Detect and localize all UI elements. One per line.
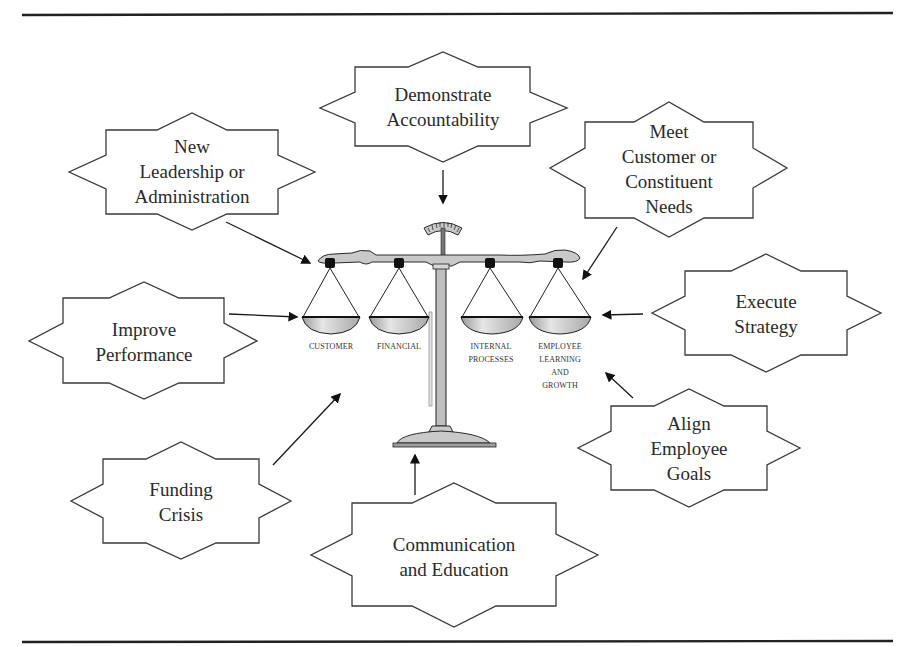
- svg-text:Communication: Communication: [393, 534, 516, 555]
- arrow-execute-strategy: [603, 314, 643, 315]
- svg-text:Needs: Needs: [645, 196, 692, 217]
- driver-demonstrate-accountability: Demonstrate Accountability: [320, 52, 567, 162]
- pan-employee: [529, 317, 591, 334]
- svg-text:Goals: Goals: [667, 463, 711, 484]
- scale: CUSTOMER FINANCIAL INTERNAL PROCESSES EM…: [302, 222, 591, 447]
- svg-text:Employee: Employee: [650, 438, 727, 459]
- driver-improve-performance: Improve Performance: [29, 282, 257, 399]
- scale-base: [397, 431, 490, 443]
- svg-text:Accountability: Accountability: [387, 109, 500, 130]
- pan-label-internal: INTERNAL: [471, 342, 512, 351]
- svg-text:Administration: Administration: [134, 186, 250, 207]
- svg-text:PROCESSES: PROCESSES: [469, 355, 514, 364]
- driver-meet-customer-needs: Meet Customer or Constituent Needs: [550, 102, 787, 237]
- svg-text:Meet: Meet: [649, 121, 689, 142]
- svg-text:LEARNING: LEARNING: [539, 355, 581, 364]
- scale-beam: [318, 250, 580, 266]
- svg-text:Leadership or: Leadership or: [140, 161, 246, 182]
- svg-text:Constituent: Constituent: [625, 171, 713, 192]
- svg-text:Improve: Improve: [112, 319, 176, 340]
- scale-post: [436, 266, 446, 426]
- svg-text:New: New: [174, 136, 210, 157]
- driver-new-leadership: New Leadership or Administration: [69, 113, 315, 230]
- svg-text:Strategy: Strategy: [734, 316, 798, 337]
- pan-customer: [302, 317, 360, 334]
- scale-pointer: [429, 312, 432, 406]
- svg-text:Demonstrate: Demonstrate: [394, 84, 491, 105]
- svg-text:Crisis: Crisis: [159, 504, 203, 525]
- arrow-improve-performance: [229, 314, 297, 317]
- svg-text:GROWTH: GROWTH: [542, 381, 578, 390]
- bottom-rule: [22, 641, 893, 642]
- pan-label-financial: FINANCIAL: [377, 342, 421, 351]
- diagram-canvas: Demonstrate Accountability New Leadershi…: [0, 0, 917, 646]
- arrow-align-employee: [606, 373, 633, 398]
- pan-label-employee: EMPLOYEE: [538, 342, 581, 351]
- driver-execute-strategy: Execute Strategy: [652, 254, 881, 372]
- top-rule: [22, 13, 893, 15]
- pan-label-customer: CUSTOMER: [309, 342, 354, 351]
- svg-text:Customer or: Customer or: [622, 146, 717, 167]
- driver-align-employee-goals: Align Employee Goals: [578, 389, 800, 507]
- svg-text:and Education: and Education: [399, 559, 509, 580]
- arrow-funding-crisis: [273, 394, 340, 465]
- svg-text:Execute: Execute: [735, 291, 796, 312]
- arrow-new-leadership: [226, 222, 310, 263]
- pan-internal: [461, 317, 523, 334]
- driver-communication-education: Communication and Education: [311, 483, 598, 627]
- pan-financial: [369, 317, 429, 334]
- svg-text:Performance: Performance: [95, 344, 192, 365]
- svg-text:Align: Align: [667, 413, 711, 434]
- svg-text:AND: AND: [551, 368, 569, 377]
- driver-funding-crisis: Funding Crisis: [71, 442, 291, 559]
- svg-text:Funding: Funding: [149, 479, 213, 500]
- arrow-meet-customer: [583, 227, 617, 279]
